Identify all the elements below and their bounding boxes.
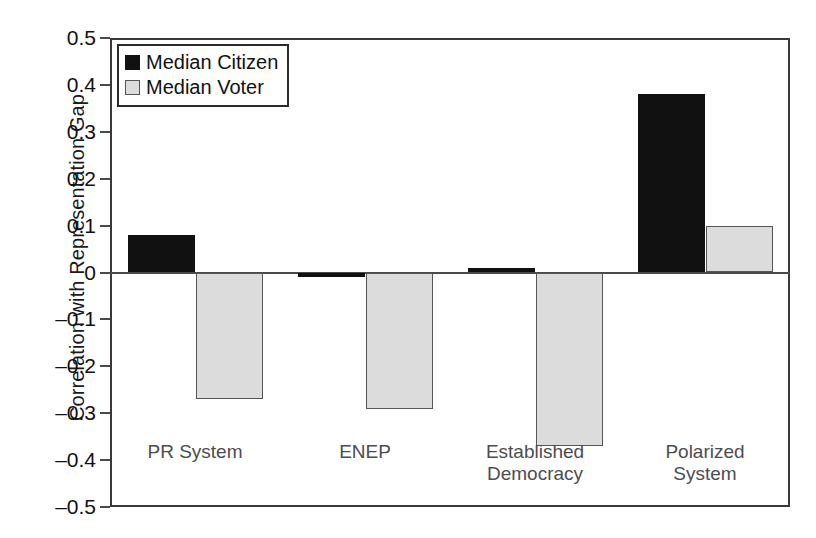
bar-median-citizen — [468, 268, 535, 273]
y-axis-tick-label: 0 — [10, 261, 96, 285]
bar-median-citizen — [128, 235, 195, 273]
legend-label-median-voter: Median Voter — [146, 76, 264, 99]
y-axis-tick — [100, 84, 110, 86]
y-axis-tick — [100, 412, 110, 414]
legend-swatch-citizen-icon — [125, 55, 140, 70]
bar-median-citizen — [298, 273, 365, 278]
y-axis-tick — [100, 459, 110, 461]
y-axis-tick-label: 0.1 — [10, 214, 96, 238]
y-axis-tick-label: –0.2 — [10, 354, 96, 378]
y-axis-tick — [100, 272, 110, 274]
y-axis-tick-label: –0.4 — [10, 448, 96, 472]
y-axis-tick-label: 0.2 — [10, 167, 96, 191]
y-axis-tick-label: 0.3 — [10, 120, 96, 144]
x-axis-category-label: PR System — [110, 441, 280, 463]
y-axis-tick — [100, 178, 110, 180]
bar-median-voter — [366, 273, 433, 409]
y-axis-tick — [100, 37, 110, 39]
x-axis-category-label: Established Democracy — [450, 441, 620, 486]
chart-legend: Median Citizen Median Voter — [117, 44, 289, 107]
y-axis-tick — [100, 506, 110, 508]
legend-item-median-voter: Median Voter — [125, 75, 278, 100]
y-axis-tick — [100, 365, 110, 367]
bar-median-voter — [536, 273, 603, 447]
y-axis-tick — [100, 131, 110, 133]
y-axis-tick-label: 0.5 — [10, 26, 96, 50]
y-axis-tick-label: –0.3 — [10, 401, 96, 425]
bar-chart: Correlation with Representation Gap 0.50… — [0, 0, 816, 538]
y-axis-tick-label: 0.4 — [10, 73, 96, 97]
y-axis-tick — [100, 318, 110, 320]
y-axis-tick-label: –0.1 — [10, 307, 96, 331]
bar-median-citizen — [638, 94, 705, 272]
x-axis-category-label: Polarized System — [620, 441, 790, 486]
y-axis-tick — [100, 225, 110, 227]
x-axis-category-label: ENEP — [280, 441, 450, 463]
y-axis-tick-label: –0.5 — [10, 495, 96, 519]
legend-swatch-voter-icon — [125, 80, 140, 95]
legend-label-median-citizen: Median Citizen — [146, 51, 278, 74]
bar-median-voter — [706, 226, 773, 273]
bar-median-voter — [196, 273, 263, 400]
legend-item-median-citizen: Median Citizen — [125, 50, 278, 75]
